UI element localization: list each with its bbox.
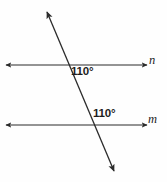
line-label-n: n [149,54,155,67]
transversal-line [47,12,114,171]
geometry-canvas [0,0,167,182]
angle-label-lower: 110° [93,108,115,120]
geometry-figure: 110° 110° n m [0,0,167,182]
line-label-m: m [148,113,157,126]
angle-label-upper: 110° [71,66,93,78]
